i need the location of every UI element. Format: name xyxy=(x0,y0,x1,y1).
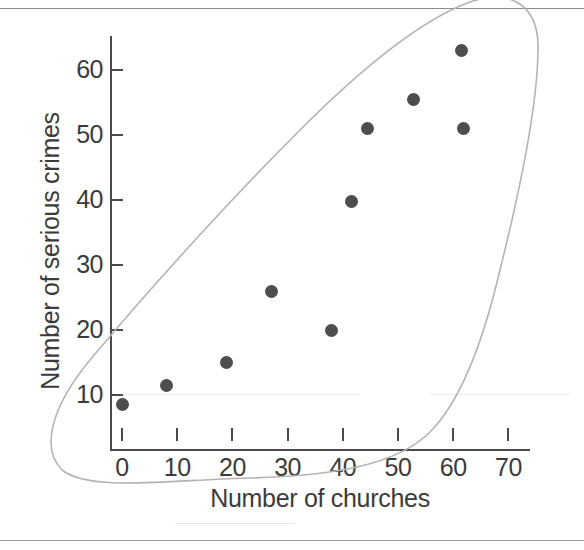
scan-artifact xyxy=(118,394,358,395)
x-tick-label-0: 0 xyxy=(92,455,152,480)
y-tick-30 xyxy=(112,264,123,266)
data-point xyxy=(457,122,470,135)
data-point xyxy=(265,285,278,298)
data-point xyxy=(407,93,420,106)
x-tick-label-30: 30 xyxy=(258,455,318,480)
x-axis-line xyxy=(110,449,530,451)
y-tick-10 xyxy=(112,394,123,396)
x-tick-label-20: 20 xyxy=(202,455,262,480)
scatter-plot-figure: 102030405060 010203040506070 Number of c… xyxy=(0,0,584,550)
x-tick-label-50: 50 xyxy=(368,455,428,480)
y-axis-title: Number of serious crimes xyxy=(35,41,65,461)
x-tick-label-70: 70 xyxy=(478,455,538,480)
data-point xyxy=(455,44,468,57)
x-tick-30 xyxy=(287,428,289,441)
data-point xyxy=(325,324,338,337)
y-axis-line xyxy=(110,36,112,451)
data-point xyxy=(345,195,358,208)
x-tick-70 xyxy=(507,428,509,441)
x-tick-10 xyxy=(176,428,178,441)
y-tick-40 xyxy=(112,199,123,201)
scan-artifact xyxy=(430,394,570,395)
page-rule-top xyxy=(0,8,584,9)
x-axis-title: Number of churches xyxy=(110,483,530,513)
x-tick-label-60: 60 xyxy=(423,455,483,480)
x-tick-label-10: 10 xyxy=(147,455,207,480)
scan-artifact xyxy=(175,523,295,524)
data-point xyxy=(116,398,129,411)
x-tick-50 xyxy=(397,428,399,441)
x-tick-20 xyxy=(231,428,233,441)
data-point xyxy=(361,122,374,135)
x-tick-0 xyxy=(121,428,123,441)
page-rule-bottom xyxy=(0,540,584,541)
x-tick-label-40: 40 xyxy=(313,455,373,480)
x-tick-40 xyxy=(342,428,344,441)
x-tick-60 xyxy=(452,428,454,441)
y-tick-20 xyxy=(112,329,123,331)
data-point xyxy=(220,356,233,369)
y-tick-60 xyxy=(112,69,123,71)
y-tick-50 xyxy=(112,134,123,136)
data-point xyxy=(160,379,173,392)
